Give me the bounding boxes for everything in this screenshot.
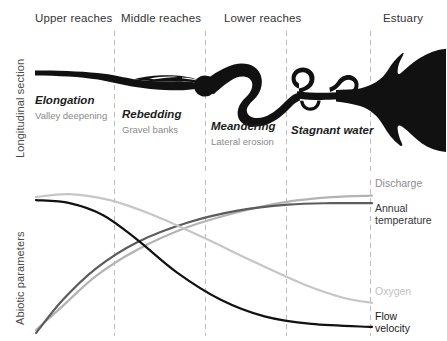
series-line-flow-velocity [36, 200, 372, 327]
process-title-meandering: Meandering [211, 120, 276, 132]
process-title-stagnant-water: Stagnant water [291, 124, 373, 136]
process-title-elongation: Elongation [35, 94, 94, 106]
legend-label-discharge: Discharge [375, 178, 422, 190]
longitudinal-section-panel [0, 0, 447, 178]
process-subtitle-meandering: Lateral erosion [211, 136, 274, 147]
process-subtitle-elongation: Valley deepening [35, 110, 107, 121]
chart-series-group [36, 194, 372, 333]
series-line-oxygen [36, 194, 372, 303]
legend-label-annual-temperature: Annual temperature [375, 203, 432, 226]
process-title-rebedding: Rebedding [122, 108, 181, 120]
process-subtitle-rebedding: Gravel banks [122, 124, 178, 135]
series-line-discharge [36, 196, 372, 330]
legend-label-oxygen: Oxygen [375, 286, 411, 298]
legend-label-flow-velocity: Flow velocity [375, 311, 410, 334]
figure-root: Longitudinal section Abiotic parameters … [0, 0, 447, 341]
